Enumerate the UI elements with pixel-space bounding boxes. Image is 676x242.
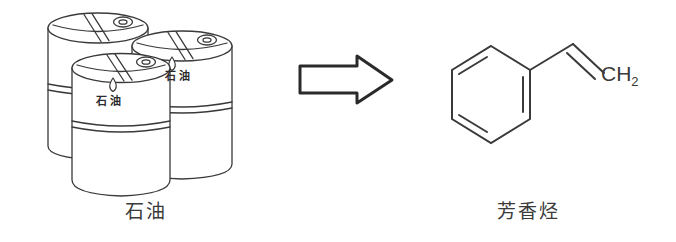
benzene-ring [452,46,530,143]
caption-aromatic-hydrocarbon: 芳香烃 [478,196,578,223]
double-bond-inner-upper-left [459,57,487,74]
ch2-label: CH2 [601,62,639,89]
vinyl-group [530,44,604,79]
ch2-text: CH [601,62,631,85]
double-bond-vinyl-inner [567,53,595,79]
caption-petroleum: 石油 [96,196,196,223]
ch2-subscript: 2 [631,74,638,89]
double-bond-vinyl-outer [573,44,604,73]
double-bond-inner-lower-left [459,115,487,132]
figure-canvas: 石油 石油 CH2 石油 芳香烃 [0,0,676,242]
bond-ring-to-vinyl [530,44,573,70]
